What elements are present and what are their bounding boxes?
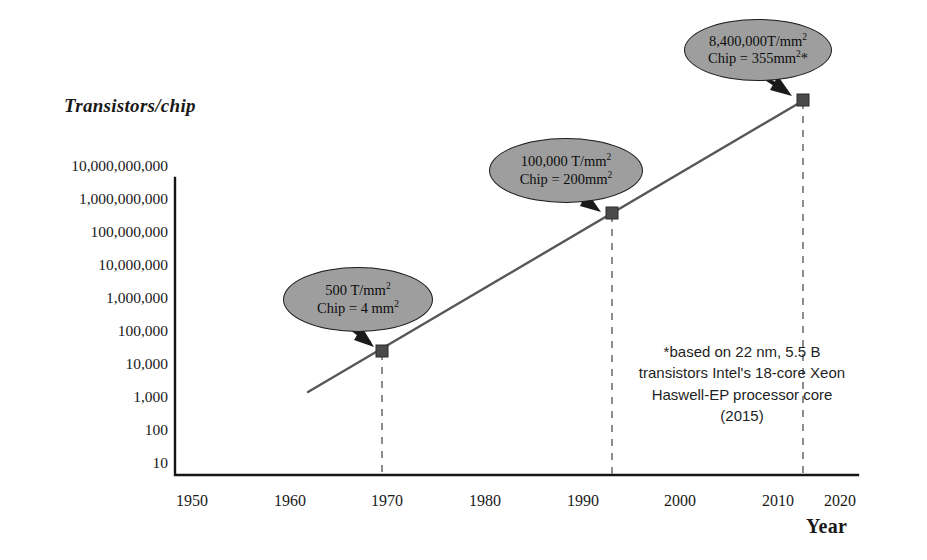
callout-500-line1: 500 T/mm2 (325, 282, 390, 299)
callout-500-line2: Chip = 4 mm2 (317, 300, 399, 317)
data-point-marker (606, 207, 618, 219)
callout-100k-line2: Chip = 200mm2 (520, 171, 613, 188)
callout-500: 500 T/mm2 Chip = 4 mm2 (283, 267, 433, 332)
data-point-marker (797, 94, 809, 106)
callout-100k: 100,000 T/mm2 Chip = 200mm2 (489, 138, 643, 203)
callout-8400k: 8,400,000T/mm2 Chip = 355mm2* (684, 19, 832, 81)
data-point-marker (376, 345, 388, 357)
transistors-per-chip-chart: Transistors/chip 10,000,000,000 1,000,00… (0, 0, 927, 560)
axis-lines (175, 178, 858, 475)
plot-area (0, 0, 927, 560)
callout-8400k-line1: 8,400,000T/mm2 (709, 33, 807, 50)
callout-8400k-line2: Chip = 355mm2* (708, 50, 808, 67)
footnote-text: *based on 22 nm, 5.5 B transistors Intel… (638, 341, 846, 426)
callout-100k-line1: 100,000 T/mm2 (521, 153, 612, 170)
